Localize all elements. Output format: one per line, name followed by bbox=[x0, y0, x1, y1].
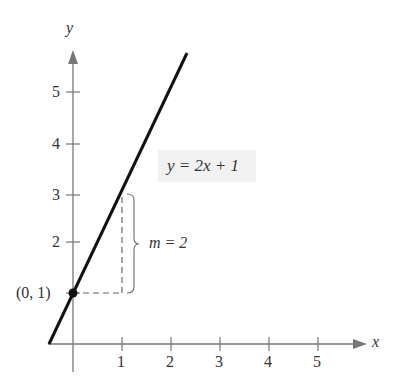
line-y-2x-plus-1 bbox=[49, 53, 187, 344]
y-tick-3: 3 bbox=[52, 187, 60, 203]
slope-label: m = 2 bbox=[149, 235, 187, 251]
point-label: (0, 1) bbox=[16, 285, 51, 301]
x-tick-5: 5 bbox=[313, 354, 321, 370]
x-tick-3: 3 bbox=[215, 354, 223, 370]
x-axis-arrow-icon bbox=[353, 339, 367, 349]
y-axis-label: y bbox=[66, 20, 73, 36]
x-tick-1: 1 bbox=[117, 354, 125, 370]
y-tick-4: 4 bbox=[52, 136, 60, 152]
x-tick-2: 2 bbox=[166, 354, 174, 370]
point-0-1 bbox=[69, 289, 78, 298]
x-tick-4: 4 bbox=[264, 354, 272, 370]
y-tick-5: 5 bbox=[52, 84, 60, 100]
y-tick-2: 2 bbox=[52, 234, 60, 250]
equation-label: y = 2x + 1 bbox=[167, 157, 239, 174]
y-axis-arrow-icon bbox=[68, 50, 78, 64]
slope-brace-icon bbox=[127, 194, 139, 293]
x-axis-label: x bbox=[372, 334, 379, 350]
